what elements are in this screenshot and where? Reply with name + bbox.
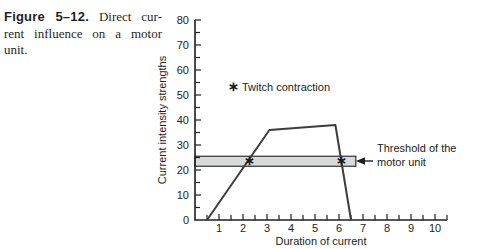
chart-render-layer: 0102030405060708012345678910∗∗ xyxy=(177,14,447,234)
motor-unit-chart: 0102030405060708012345678910∗∗ Current i… xyxy=(0,0,478,249)
y-tick-label: 0 xyxy=(183,214,189,226)
y-tick-label: 30 xyxy=(177,139,189,151)
x-tick-label: 4 xyxy=(288,222,294,234)
twitch-marker-icon: ∗ xyxy=(336,153,347,168)
y-tick-label: 20 xyxy=(177,164,189,176)
axes xyxy=(195,20,447,220)
x-tick-label: 8 xyxy=(384,222,390,234)
legend-twitch-symbol-icon: ∗ xyxy=(228,79,239,94)
x-tick-label: 1 xyxy=(216,222,222,234)
series-line xyxy=(207,125,351,220)
x-tick-label: 10 xyxy=(429,222,441,234)
y-tick-label: 70 xyxy=(177,39,189,51)
y-tick-label: 80 xyxy=(177,14,189,26)
y-tick-label: 50 xyxy=(177,89,189,101)
y-tick-label: 60 xyxy=(177,64,189,76)
figure-5-12: Figure 5–12. Direct cur- rent influence … xyxy=(0,0,478,249)
x-tick-label: 3 xyxy=(264,222,270,234)
x-tick-label: 2 xyxy=(240,222,246,234)
twitch-marker-icon: ∗ xyxy=(244,153,255,168)
threshold-annotation-line-2: motor unit xyxy=(377,156,426,168)
annotation-arrowhead-icon xyxy=(356,157,365,165)
x-tick-label: 9 xyxy=(408,222,414,234)
x-tick-label: 6 xyxy=(336,222,342,234)
y-tick-label: 40 xyxy=(177,114,189,126)
x-axis-title: Duration of current xyxy=(275,235,366,247)
threshold-band xyxy=(195,156,356,166)
x-tick-label: 5 xyxy=(312,222,318,234)
y-tick-label: 10 xyxy=(177,189,189,201)
x-tick-label: 7 xyxy=(360,222,366,234)
legend-twitch-label: Twitch contraction xyxy=(242,81,330,93)
threshold-annotation-line-1: Threshold of the xyxy=(377,142,457,154)
y-axis-title: Current intensity strengths xyxy=(156,55,168,184)
